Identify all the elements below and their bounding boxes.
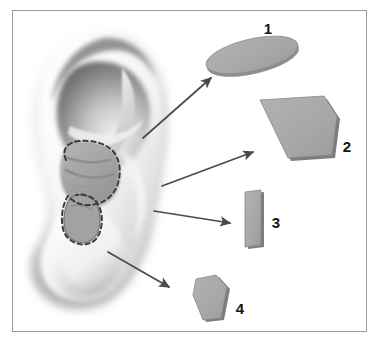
shape-label-3: 3 [272,214,280,231]
figure-canvas: 1 2 3 4 [0,0,378,346]
shape-label-4: 4 [236,300,245,317]
ear-graft-figure: 1 2 3 4 [0,0,378,346]
shape-label-1: 1 [264,20,272,37]
shape-label-2: 2 [343,138,351,155]
shape-3-strip [245,190,264,249]
